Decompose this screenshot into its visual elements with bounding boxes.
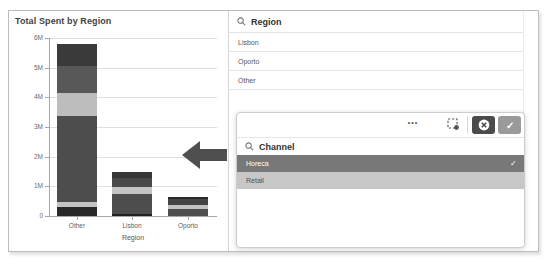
channel-item-label: Horeca	[246, 160, 269, 167]
cancel-icon	[478, 119, 490, 131]
filter-item-other[interactable]: Other	[229, 70, 523, 89]
search-icon[interactable]	[237, 17, 246, 26]
y-axis-label: 0	[21, 212, 43, 219]
filter-item-oporto[interactable]: Oporto	[229, 51, 523, 70]
y-axis-label: 1M	[21, 182, 43, 189]
annotation-arrow-icon	[182, 140, 228, 170]
screenshot-canvas: Total Spent by Region 01M2M3M4M5M6MOther…	[0, 0, 544, 264]
bar-segment-other-0[interactable]	[57, 207, 97, 216]
filter-pane-region: Region Lisbon Oporto Other	[229, 11, 524, 121]
region-pane-title: Region	[251, 17, 282, 27]
x-axis-label: Lisbon	[107, 222, 157, 229]
channel-item-label: Retail	[246, 177, 264, 184]
selection-toolbar: ••• ✓	[237, 113, 524, 138]
list-divider	[229, 89, 523, 90]
filter-item-label: Lisbon	[238, 39, 259, 46]
bar-segment-oporto-3[interactable]	[168, 197, 208, 198]
bar-segment-other-4[interactable]	[57, 66, 97, 93]
y-axis-label: 5M	[21, 64, 43, 71]
bar-chart-plot[interactable]: 01M2M3M4M5M6MOtherLisbonOportoRegion	[9, 11, 228, 251]
more-options-icon[interactable]: •••	[404, 115, 422, 133]
filter-item-label: Oporto	[238, 58, 259, 65]
bar-segment-lisbon-4[interactable]	[112, 172, 152, 178]
gridline	[49, 38, 217, 39]
chart-panel: Total Spent by Region 01M2M3M4M5M6MOther…	[9, 11, 229, 251]
lasso-icon[interactable]	[447, 118, 460, 131]
y-axis-label: 2M	[21, 153, 43, 160]
filter-item-label: Other	[238, 77, 256, 84]
bar-segment-other-1[interactable]	[57, 202, 97, 207]
bar-segment-other-2[interactable]	[57, 116, 97, 202]
selected-check-icon: ✓	[510, 160, 517, 168]
bar-segment-other-3[interactable]	[57, 93, 97, 116]
bar-segment-lisbon-0[interactable]	[112, 214, 152, 216]
toolbar-divider	[467, 116, 468, 133]
cancel-selection-button[interactable]	[472, 116, 495, 134]
selection-popup: ••• ✓	[236, 112, 525, 248]
bar-segment-oporto-2[interactable]	[168, 199, 208, 205]
region-pane-header: Region	[229, 11, 523, 32]
channel-item-retail[interactable]: Retail	[237, 172, 524, 189]
y-axis-line	[49, 38, 50, 216]
x-axis-label: Other	[52, 222, 102, 229]
x-axis-title: Region	[93, 234, 173, 241]
confirm-selection-button[interactable]: ✓	[498, 116, 521, 134]
x-axis-line	[49, 216, 217, 217]
bar-segment-oporto-1[interactable]	[168, 205, 208, 210]
x-axis-label: Oporto	[163, 222, 213, 229]
bar-segment-lisbon-1[interactable]	[112, 194, 152, 214]
bar-segment-lisbon-2[interactable]	[112, 187, 152, 194]
page-frame: Total Spent by Region 01M2M3M4M5M6MOther…	[8, 10, 539, 252]
y-axis-label: 3M	[21, 123, 43, 130]
channel-item-horeca[interactable]: Horeca ✓	[237, 155, 524, 172]
x-axis-tick	[77, 217, 78, 220]
channel-pane-header: Channel	[237, 138, 524, 155]
bar-segment-oporto-0[interactable]	[168, 209, 208, 216]
search-icon[interactable]	[245, 142, 254, 151]
x-axis-tick	[188, 217, 189, 220]
filter-item-lisbon[interactable]: Lisbon	[229, 32, 523, 51]
channel-pane-title: Channel	[259, 142, 295, 152]
y-axis-label: 4M	[21, 93, 43, 100]
x-axis-tick	[132, 217, 133, 220]
bar-segment-other-5[interactable]	[57, 44, 97, 66]
confirm-icon: ✓	[506, 120, 514, 131]
y-axis-label: 6M	[21, 34, 43, 41]
bar-segment-lisbon-3[interactable]	[112, 178, 152, 187]
